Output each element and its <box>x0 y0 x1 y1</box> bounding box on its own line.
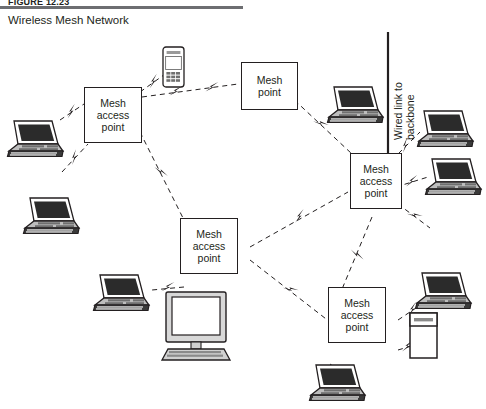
node-mesh-access-point-right[interactable]: Mesh access point <box>350 153 402 209</box>
figure-container: FIGURE 12.23 Wireless Mesh Network <box>0 0 486 409</box>
laptop-left-top-icon <box>8 121 64 157</box>
node-label-line: Mesh <box>97 97 130 109</box>
node-mesh-access-point-center[interactable]: Mesh access point <box>180 218 238 274</box>
laptop-right-b-icon <box>426 159 482 195</box>
laptop-top-right-icon <box>328 87 384 123</box>
node-label-line: Mesh <box>193 228 226 240</box>
node-mesh-access-point-bottom[interactable]: Mesh access point <box>328 287 386 343</box>
node-label-line: Mesh <box>341 297 374 309</box>
node-label-line: point <box>97 121 130 133</box>
laptop-right-a-icon <box>418 111 474 147</box>
node-label-line: point <box>341 321 374 333</box>
wired-caption-line: backbone <box>404 82 416 140</box>
node-label-line: Mesh <box>257 74 283 86</box>
node-mesh-point-top[interactable]: Mesh point <box>241 62 298 110</box>
laptop-left-low-icon <box>94 275 150 311</box>
node-mesh-access-point-left[interactable]: Mesh access point <box>84 87 142 143</box>
node-label-line: access <box>97 109 130 121</box>
laptop-left-mid-icon <box>24 198 80 234</box>
mobile-phone-icon <box>163 47 184 87</box>
figure-rule <box>0 6 243 9</box>
node-label-line: point <box>257 86 283 98</box>
node-label-line: point <box>360 187 393 199</box>
wired-link-caption: Wired link to backbone <box>392 82 416 140</box>
laptop-bottom-icon <box>310 365 366 401</box>
node-label-line: access <box>360 175 393 187</box>
server-tower-icon <box>410 313 437 358</box>
figure-title: Wireless Mesh Network <box>8 14 129 26</box>
diagram-canvas: Mesh access point Mesh point Mesh access… <box>0 32 486 409</box>
node-label-line: access <box>193 240 226 252</box>
node-label-line: point <box>193 252 226 264</box>
node-label-line: Mesh <box>360 163 393 175</box>
node-label-line: access <box>341 309 374 321</box>
desktop-computer-icon <box>162 292 230 360</box>
laptop-right-low-icon <box>416 273 472 309</box>
wired-caption-line: Wired link to <box>392 82 404 140</box>
